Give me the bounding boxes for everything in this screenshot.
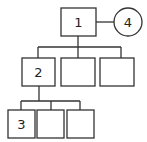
- tree-diagram: 1 4 2 3: [0, 0, 147, 142]
- node-empty-level2-middle: [61, 58, 95, 86]
- node-1-label: 1: [74, 15, 82, 30]
- node-3-label: 3: [17, 117, 25, 132]
- node-empty-level2-right: [100, 58, 134, 86]
- node-empty-level3-middle: [37, 110, 64, 138]
- node-4-label: 4: [124, 15, 132, 30]
- node-empty-level3-right: [67, 110, 94, 138]
- node-2-label: 2: [34, 65, 42, 80]
